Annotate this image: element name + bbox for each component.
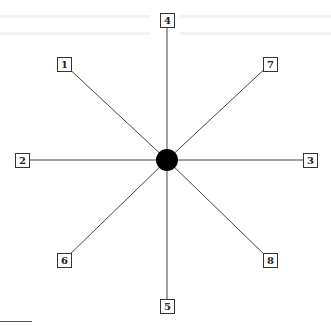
node-label-2: 2 <box>15 153 30 168</box>
node-label-1: 1 <box>57 57 72 72</box>
node-label-7: 7 <box>263 57 278 72</box>
radial-diagram <box>0 0 331 326</box>
node-label-5: 5 <box>160 299 175 314</box>
spoke-line <box>167 160 270 260</box>
spoke-line <box>64 64 167 160</box>
node-label-8: 8 <box>263 253 278 268</box>
node-label-6: 6 <box>57 253 72 268</box>
center-hub <box>156 149 178 171</box>
spoke-line <box>167 64 270 160</box>
footnote-rule <box>0 321 32 322</box>
node-label-4: 4 <box>160 13 175 28</box>
spoke-line <box>64 160 167 260</box>
node-label-3: 3 <box>303 153 318 168</box>
